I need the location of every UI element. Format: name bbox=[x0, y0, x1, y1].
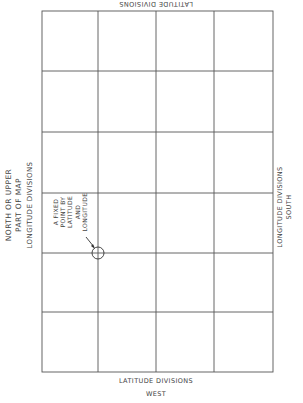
bottom-label-line1: LATITUDE DIVISIONS bbox=[119, 377, 193, 386]
point-label-line4: AND bbox=[74, 193, 81, 232]
point-label-line2: POINT BY bbox=[59, 193, 66, 232]
arrowhead-icon bbox=[91, 244, 95, 249]
fixed-point-label: A FIXED POINT BY LATITUDE AND LONGITUDE bbox=[52, 193, 88, 232]
right-label: LONGITUDE DIVISIONS SOUTH bbox=[276, 166, 294, 247]
left-label: NORTH OR UPPER PART OF MAP LONGITUDE DIV… bbox=[4, 162, 36, 249]
bottom-label: LATITUDE DIVISIONS WEST bbox=[119, 377, 193, 399]
map-grid bbox=[0, 0, 303, 403]
right-label-line2: SOUTH bbox=[285, 166, 294, 247]
top-label: LATITUDE DIVISIONS bbox=[119, 0, 193, 8]
left-label-line2: PART OF MAP bbox=[14, 162, 24, 249]
left-label-line1: NORTH OR UPPER bbox=[4, 162, 14, 249]
left-label-line3: LONGITUDE DIVISIONS bbox=[26, 162, 35, 249]
fixed-point-marker bbox=[86, 237, 104, 259]
right-label-line1: LONGITUDE DIVISIONS bbox=[276, 166, 285, 247]
point-label-line1: A FIXED bbox=[52, 193, 59, 232]
bottom-label-line2: WEST bbox=[119, 390, 193, 399]
point-label-line3: LATITUDE bbox=[66, 193, 73, 232]
point-label-line5: LONGITUDE bbox=[81, 193, 88, 232]
